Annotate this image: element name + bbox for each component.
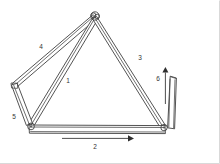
member-4-label: 4 [39, 43, 43, 50]
linkage-diagram-figure: 1 2 3 4 5 6 [0, 0, 220, 164]
arrow-member-6-direction [162, 67, 168, 104]
member-2-label: 2 [93, 143, 97, 150]
member-3-bar [93, 16, 166, 128]
diagram-canvas: 1 2 3 4 5 6 [0, 0, 220, 164]
figure-border [0, 1, 220, 164]
member-3-label: 3 [138, 54, 142, 61]
member-6-bar [168, 76, 177, 129]
member-5-label: 5 [12, 113, 16, 120]
arrow-member-2-direction [62, 135, 134, 141]
member-2-bar [29, 125, 165, 134]
member-4-bar [12, 15, 96, 89]
member-1-bar [28, 18, 97, 127]
member-1-label: 1 [66, 77, 70, 84]
member-6-label: 6 [156, 75, 160, 82]
